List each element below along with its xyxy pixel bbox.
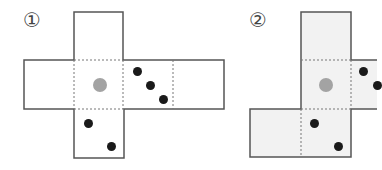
- black-dot: [373, 81, 382, 90]
- black-dot: [359, 67, 368, 76]
- grey-dot: [319, 78, 333, 92]
- black-dot: [310, 119, 319, 128]
- black-dot: [334, 142, 343, 151]
